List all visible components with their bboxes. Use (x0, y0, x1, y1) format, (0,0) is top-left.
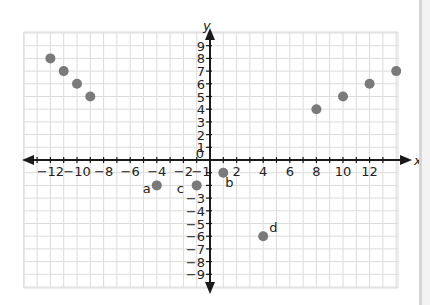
x-tick-label: −1 (191, 164, 210, 179)
data-point (391, 66, 401, 76)
data-point (152, 180, 162, 190)
y-tick-label: −9 (186, 267, 205, 282)
x-tick-label: −2 (174, 164, 193, 179)
point-label-a: a (143, 181, 151, 196)
data-point (258, 231, 268, 241)
side-scrollbar-strip (419, 0, 430, 305)
x-tick-label: 8 (312, 164, 320, 179)
x-tick-label: −10 (63, 164, 90, 179)
y-axis-title: y (202, 18, 211, 33)
point-label-c: c (177, 181, 184, 196)
data-point (72, 79, 82, 89)
data-point (365, 79, 375, 89)
coordinate-plane: xy −12−10−8−6−4−224681012−10987654321−3−… (0, 0, 430, 305)
y-tick-label: 1 (197, 140, 205, 155)
x-tick-label: −4 (147, 164, 166, 179)
axes: xy (22, 18, 422, 294)
data-point (192, 180, 202, 190)
x-tick-label: −8 (94, 164, 113, 179)
data-point (311, 104, 321, 114)
data-point (338, 92, 348, 102)
x-tick-label: 12 (361, 164, 378, 179)
x-tick-label: 2 (232, 164, 240, 179)
x-tick-label: 4 (259, 164, 267, 179)
point-label-b: b (225, 175, 233, 190)
x-axis-right-arrow-icon (400, 155, 412, 165)
point-label-d: d (269, 220, 277, 235)
x-tick-label: 6 (286, 164, 294, 179)
data-point (85, 92, 95, 102)
data-point (45, 53, 55, 63)
x-tick-label: −6 (121, 164, 140, 179)
x-tick-label: 10 (335, 164, 352, 179)
x-tick-label: −12 (37, 164, 64, 179)
data-point (59, 66, 69, 76)
